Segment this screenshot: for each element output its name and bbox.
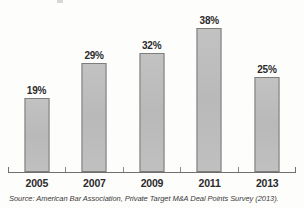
bar-2005[interactable] xyxy=(24,98,49,172)
x-tick-label-2009: 2009 xyxy=(123,176,181,192)
x-axis-tick xyxy=(123,167,124,172)
bar-group-2005[interactable]: 19% xyxy=(8,0,65,176)
x-axis-start-cap xyxy=(8,167,9,173)
bar-2013[interactable] xyxy=(254,77,279,172)
x-axis-tick-labels: 2005 2007 2009 2011 2013 xyxy=(8,176,296,192)
source-note: Source: American Bar Association, Privat… xyxy=(9,194,279,203)
x-tick-label-2005: 2005 xyxy=(8,176,66,192)
bar-2007[interactable] xyxy=(82,63,107,172)
bar-value-label: 32% xyxy=(142,40,161,51)
x-axis-line xyxy=(8,172,296,173)
bar-2009[interactable] xyxy=(139,53,164,172)
x-axis-tick xyxy=(65,167,66,172)
x-tick-label-2011: 2011 xyxy=(181,176,239,192)
bar-value-label: 38% xyxy=(200,15,219,26)
bar-group-2011[interactable]: 38% xyxy=(181,0,238,176)
x-axis-end-cap xyxy=(295,167,296,173)
bar-group-2007[interactable]: 29% xyxy=(66,0,123,176)
x-tick-label-2013: 2013 xyxy=(238,176,296,192)
bar-chart-figure: 19% 29% 32% 38% 25% 2005 2007 2009 2011 … xyxy=(0,0,304,208)
x-axis-tick xyxy=(238,167,239,172)
bar-value-label: 19% xyxy=(27,85,46,96)
bar-group-2013[interactable]: 25% xyxy=(238,0,295,176)
x-tick-label-2007: 2007 xyxy=(66,176,124,192)
x-axis-tick xyxy=(180,167,181,172)
bar-2011[interactable] xyxy=(197,28,222,172)
bar-value-label: 25% xyxy=(257,64,276,75)
bar-group-2009[interactable]: 32% xyxy=(123,0,180,176)
plot-area: 19% 29% 32% 38% 25% xyxy=(0,0,304,176)
bar-value-label: 29% xyxy=(84,50,103,61)
